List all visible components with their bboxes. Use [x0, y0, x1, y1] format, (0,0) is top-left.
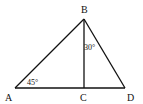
triangle-diagram: B A C D 45° 30°: [0, 0, 143, 104]
segment-bd: [84, 19, 125, 88]
point-label-d: D: [127, 92, 134, 103]
angle-label-b: 30°: [84, 43, 95, 52]
angle-label-a: 45°: [27, 78, 38, 87]
point-label-a: A: [5, 92, 13, 103]
segment-ab: [15, 19, 84, 88]
point-label-c: C: [80, 92, 87, 103]
point-label-b: B: [81, 4, 88, 15]
